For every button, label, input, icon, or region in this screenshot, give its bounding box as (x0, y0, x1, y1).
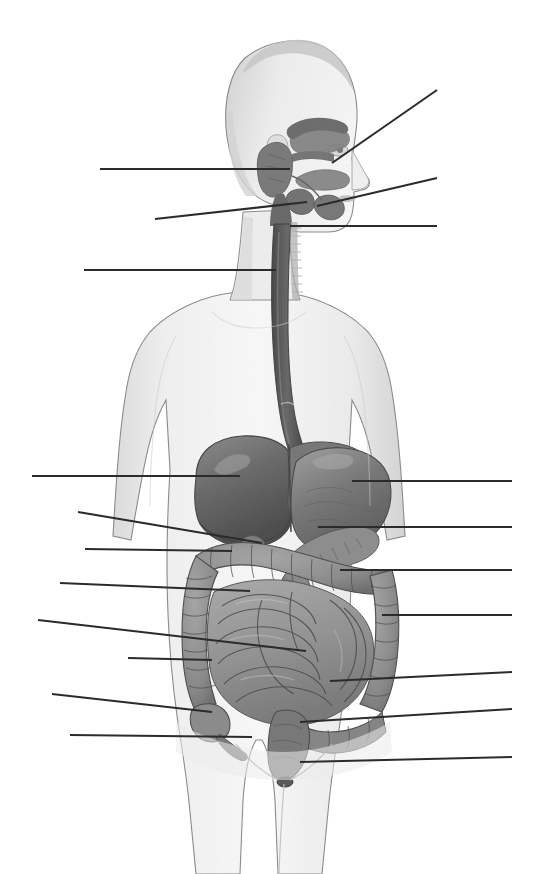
digestive-system-illustration (0, 0, 534, 874)
diagram-page: Digestive System Unlabeled anatomical di… (0, 0, 534, 874)
liver (195, 436, 292, 547)
